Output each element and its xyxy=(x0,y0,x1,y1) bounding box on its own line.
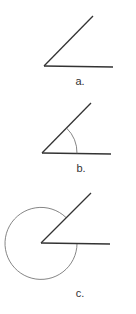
figure-c-horizontal-ray xyxy=(41,243,110,244)
figure-c-label: c. xyxy=(76,287,85,299)
figure-b-label: b. xyxy=(76,162,85,174)
figure-b-horizontal-ray xyxy=(42,153,111,154)
figure-a-upper-ray xyxy=(44,16,93,66)
figure-b: b. xyxy=(42,103,111,174)
figure-c-upper-ray xyxy=(41,193,91,243)
figure-a-label: a. xyxy=(75,75,84,87)
angle-diagram: a. b. c. xyxy=(0,0,136,314)
figure-c: c. xyxy=(5,193,110,299)
figure-b-interior-arc xyxy=(67,128,78,154)
figure-a-horizontal-ray xyxy=(44,66,113,67)
figure-a: a. xyxy=(44,16,113,87)
